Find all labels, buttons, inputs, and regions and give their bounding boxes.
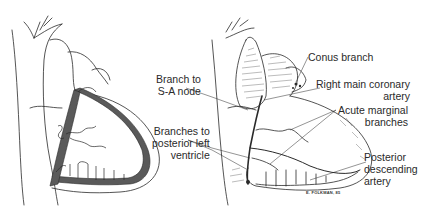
label-line: Branch to [156, 73, 201, 85]
label-branch-to-sa-node: Branch to S-A node [156, 73, 201, 97]
label-line: posterior left [152, 137, 210, 149]
label-line: S-A node [156, 85, 201, 97]
label-right-main-coronary-artery: Right main coronary artery [316, 78, 410, 102]
label-branches-posterior-left-ventricle: Branches to posterior left ventricle [152, 125, 210, 161]
label-posterior-descending-artery: Posterior descending artery [364, 151, 418, 187]
label-line: Posterior [364, 151, 418, 163]
label-line: branches [338, 116, 408, 128]
label-line: Right main coronary [316, 78, 410, 90]
label-line: ventricle [152, 149, 210, 161]
label-line: Branches to [152, 125, 210, 137]
label-line: Acute marginal [338, 104, 408, 116]
label-line: Conus branch [308, 51, 373, 63]
label-conus-branch: Conus branch [308, 51, 373, 63]
label-line: descending [364, 163, 418, 175]
coronary-artery-diagram: Branch to S-A node Branches to posterior… [0, 0, 422, 208]
label-line: artery [364, 175, 418, 187]
label-acute-marginal-branches: Acute marginal branches [338, 104, 408, 128]
label-line: artery [316, 90, 410, 102]
artist-signature: E. FOLKMAN, 85 [306, 190, 340, 195]
